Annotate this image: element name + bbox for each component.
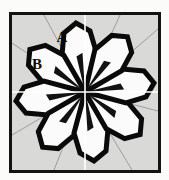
figure-root: A B: [0, 0, 169, 180]
plate-frame: [9, 12, 161, 173]
petal-label-b: B: [30, 57, 44, 72]
rosette-diagram: [12, 15, 158, 170]
petal-label-a: A: [55, 30, 69, 45]
